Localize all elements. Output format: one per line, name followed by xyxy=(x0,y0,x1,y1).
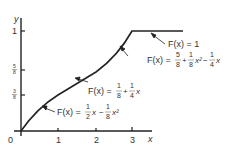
svg-text:4: 4 xyxy=(130,92,134,99)
x-tick-label-3: 3 xyxy=(130,135,135,145)
y-tick-label-3-8-den: 8 xyxy=(13,94,16,100)
x-tick-label-1: 1 xyxy=(56,135,61,145)
svg-text:1: 1 xyxy=(86,103,90,110)
svg-text:1: 1 xyxy=(106,103,110,110)
svg-text:x: x xyxy=(135,87,141,96)
svg-text:x²: x² xyxy=(111,108,119,117)
annotation-quadratic-lower: F(x) = 1 2 x − 1 8 x² xyxy=(57,103,119,120)
svg-text:x: x xyxy=(91,108,97,117)
svg-text:x: x xyxy=(215,56,221,65)
svg-text:8: 8 xyxy=(106,113,110,120)
cdf-chart: y x 0 1 2 3 1 5 8 3 8 F(x) = 1 F(x) = 5 … xyxy=(0,0,227,150)
svg-text:8: 8 xyxy=(176,61,180,68)
svg-text:5: 5 xyxy=(176,51,180,58)
svg-text:x²: x² xyxy=(194,56,202,65)
svg-text:2: 2 xyxy=(86,113,90,120)
annotation-linear: F(x) = 1 8 + 1 4 x xyxy=(88,82,141,99)
svg-text:8: 8 xyxy=(117,92,121,99)
x-axis-label: x xyxy=(147,134,153,144)
origin-label: 0 xyxy=(8,135,13,145)
svg-text:1: 1 xyxy=(189,51,193,58)
svg-text:F(x) =: F(x) = xyxy=(147,55,171,65)
svg-text:F(x) =: F(x) = xyxy=(88,86,112,96)
svg-text:−: − xyxy=(99,108,104,117)
svg-text:1: 1 xyxy=(117,82,121,89)
svg-text:8: 8 xyxy=(189,61,193,68)
svg-text:4: 4 xyxy=(210,61,214,68)
svg-text:−: − xyxy=(203,56,208,65)
svg-text:F(x) =: F(x) = xyxy=(57,107,81,117)
y-tick-label-1: 1 xyxy=(12,26,17,36)
svg-text:1: 1 xyxy=(130,82,134,89)
svg-text:+: + xyxy=(123,87,128,96)
arrow-icon xyxy=(42,33,165,112)
annotation-quadratic-upper: F(x) = 5 8 + 1 8 x² − 1 4 x xyxy=(147,51,221,68)
y-tick-label-5-8-den: 8 xyxy=(13,69,16,75)
annotation-const: F(x) = 1 xyxy=(168,39,199,49)
svg-text:+: + xyxy=(182,56,187,65)
svg-text:1: 1 xyxy=(210,51,214,58)
x-tick-label-2: 2 xyxy=(94,135,99,145)
y-axis-label: y xyxy=(13,14,19,24)
